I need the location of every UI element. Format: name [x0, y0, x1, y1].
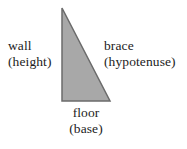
label-floor-line2: (base): [55, 121, 117, 137]
right-triangle-shape: [62, 8, 110, 101]
label-brace-line1: brace: [104, 38, 176, 54]
label-floor: floor (base): [55, 105, 117, 136]
label-wall-line2: (height): [8, 54, 52, 70]
label-wall: wall (height): [8, 38, 52, 69]
label-brace-line2: (hypotenuse): [104, 54, 176, 70]
figure-container: wall (height) brace (hypotenuse) floor (…: [0, 0, 187, 149]
label-brace: brace (hypotenuse): [104, 38, 176, 69]
label-floor-line1: floor: [55, 105, 117, 121]
label-wall-line1: wall: [8, 38, 52, 54]
